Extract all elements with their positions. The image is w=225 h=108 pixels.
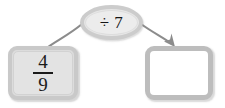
connector-operator-to-result: [141, 24, 172, 44]
input-fraction: 4 9: [33, 52, 53, 94]
operator-label: ÷ 7: [100, 13, 124, 33]
operator-bubble: ÷ 7: [80, 5, 143, 40]
result-answer-box[interactable]: [145, 46, 213, 100]
fraction-numerator: 4: [36, 52, 50, 71]
fraction-denominator: 9: [36, 75, 50, 94]
input-value-box: 4 9: [8, 46, 78, 100]
connector-input-to-operator: [48, 24, 82, 47]
diagram-canvas: 4 9 ÷ 7: [0, 0, 225, 108]
arrowhead-icon: [164, 34, 175, 48]
